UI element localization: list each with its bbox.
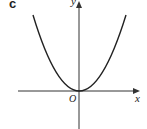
x-axis-label: x	[135, 92, 140, 104]
graph-figure: c y x O	[0, 0, 147, 129]
origin-label: O	[69, 93, 76, 104]
y-axis-label: y	[71, 0, 76, 7]
y-axis-arrow-icon	[76, 1, 82, 8]
part-label: c	[9, 0, 16, 11]
graph-canvas	[0, 0, 147, 129]
